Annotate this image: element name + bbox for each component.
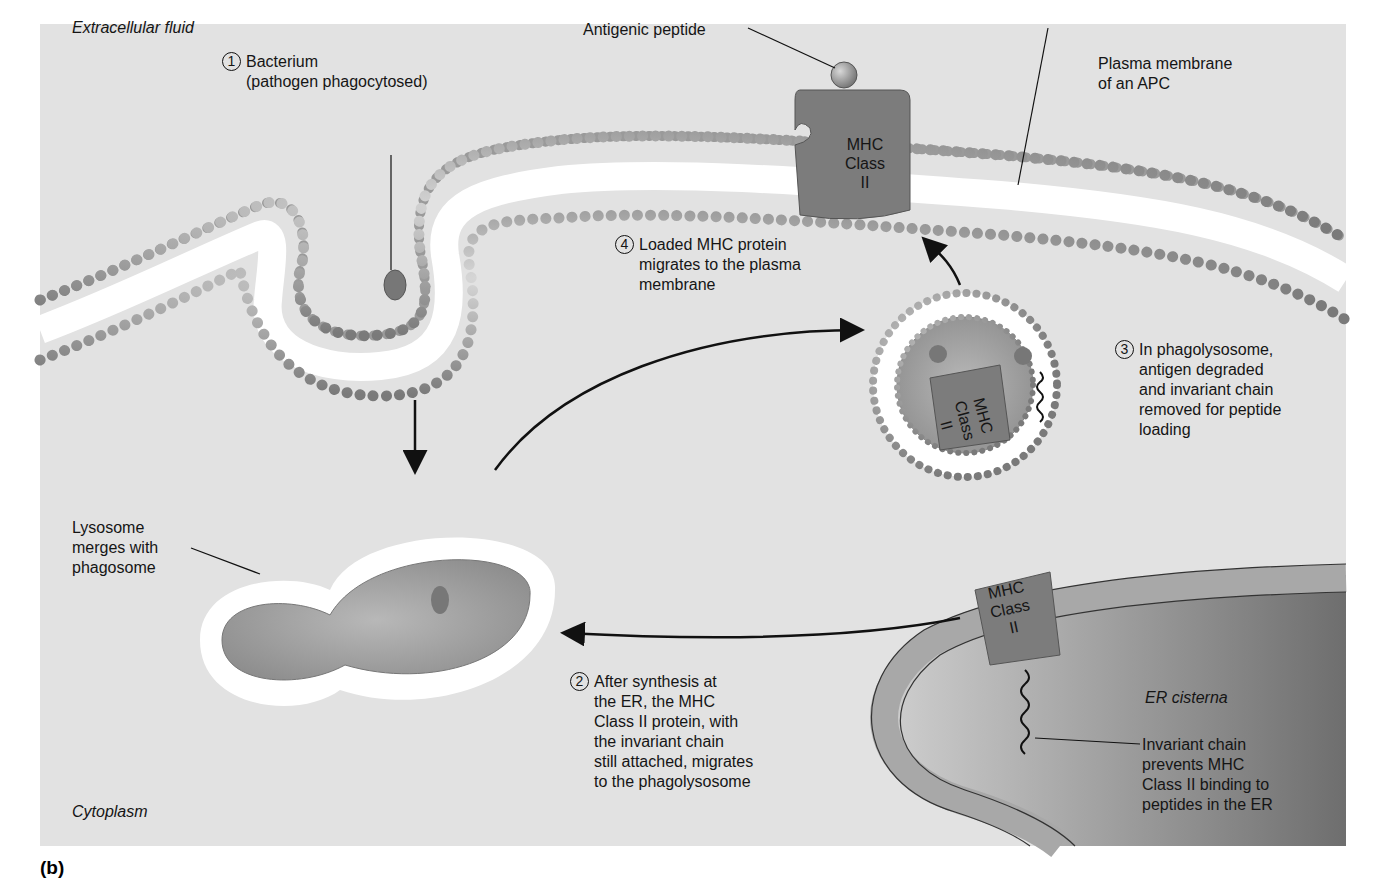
step-4: 4 Loaded MHC protein migrates to the pla… bbox=[615, 235, 801, 295]
step-number-badge: 1 bbox=[222, 52, 241, 71]
lysosome-phagosome bbox=[191, 538, 555, 706]
plasma-membrane-label: Plasma membrane of an APC bbox=[1098, 54, 1232, 94]
bacterium-icon bbox=[384, 270, 406, 300]
region-cytoplasm-label: Cytoplasm bbox=[72, 802, 148, 822]
region-extracellular-label: Extracellular fluid bbox=[72, 18, 194, 38]
step-3: 3 In phagolysosome, antigen degraded and… bbox=[1115, 340, 1281, 440]
step-1: 1 Bacterium (pathogen phagocytosed) bbox=[222, 52, 427, 92]
step-number-badge: 3 bbox=[1115, 340, 1134, 359]
step-4-text: Loaded MHC protein migrates to the plasm… bbox=[639, 235, 801, 295]
step-2-text: After synthesis at the ER, the MHC Class… bbox=[594, 672, 753, 792]
figure-panel-label: (b) bbox=[40, 857, 64, 879]
mhc-top-label: MHC Class II bbox=[830, 135, 900, 192]
region-er-label: ER cisterna bbox=[1145, 688, 1228, 708]
mhc-er-label: MHC Class II bbox=[975, 574, 1046, 642]
step-3-text: In phagolysosome, antigen degraded and i… bbox=[1139, 340, 1281, 440]
step-number-badge: 4 bbox=[615, 235, 634, 254]
step-number-badge: 2 bbox=[570, 672, 589, 691]
invariant-chain-label: Invariant chain prevents MHC Class II bi… bbox=[1142, 735, 1273, 815]
er-cisterna bbox=[871, 564, 1346, 846]
step-2: 2 After synthesis at the ER, the MHC Cla… bbox=[570, 672, 753, 792]
step-1-text: Bacterium (pathogen phagocytosed) bbox=[246, 52, 427, 92]
lysosome-label: Lysosome merges with phagosome bbox=[72, 518, 158, 578]
antigenic-peptide-label: Antigenic peptide bbox=[583, 20, 706, 40]
